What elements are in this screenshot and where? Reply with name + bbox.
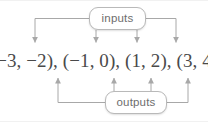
inputs-node-label: inputs (102, 13, 134, 25)
ordered-pairs-expression: (−3, −2), (−1, 0), (1, 2), (3, 4) (0, 49, 208, 73)
outputs-node: outputs (105, 91, 167, 114)
function-inputs-outputs-diagram: inputs (−3, −2), (−1, 0), (1, 2), (3, 4)… (0, 0, 208, 122)
connector-inputs-to-pair-1 (35, 19, 89, 43)
ordered-pairs-text: (−3, −2), (−1, 0), (1, 2), (3, 4) (0, 50, 208, 72)
outputs-node-label: outputs (116, 97, 155, 109)
connector-outputs-to-pair-1 (58, 78, 105, 103)
connector-outputs-to-pair-4 (167, 78, 188, 103)
inputs-node: inputs (89, 7, 146, 30)
connector-inputs-to-pair-4 (146, 19, 176, 43)
